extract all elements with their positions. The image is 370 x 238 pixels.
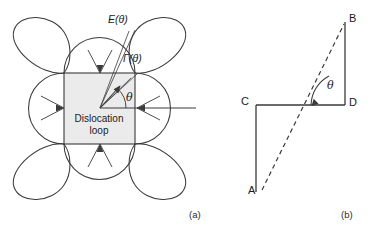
- panel-a-group: [13, 17, 196, 199]
- lobe-lower-left: [13, 144, 70, 200]
- loop-label-line1: Dislocation: [75, 113, 124, 124]
- lobe-upper-right: [129, 17, 186, 73]
- point-label-D: D: [349, 97, 357, 109]
- point-label-A: A: [248, 185, 255, 197]
- theta-label-b: θ: [327, 80, 334, 92]
- theta-arc-b-arrowhead: [309, 98, 319, 108]
- point-label-C: C: [241, 96, 249, 108]
- lobe-upper-left: [13, 17, 70, 73]
- theta-label-a: θ: [126, 92, 133, 104]
- caption-a: (a): [189, 210, 201, 220]
- energy-label-E-theta: E(θ): [108, 14, 128, 25]
- point-label-B: B: [349, 13, 356, 25]
- figure-canvas: [0, 0, 370, 238]
- lobe-lower-right: [129, 144, 186, 200]
- dislocation-loop-label: Dislocation loop: [63, 113, 135, 136]
- panel-b-group: [256, 22, 345, 192]
- gamma-label: Γ(θ): [123, 53, 142, 64]
- loop-label-line2: loop: [90, 125, 109, 136]
- caption-b: (b): [341, 210, 353, 220]
- segment-AB-dashed: [262, 24, 344, 190]
